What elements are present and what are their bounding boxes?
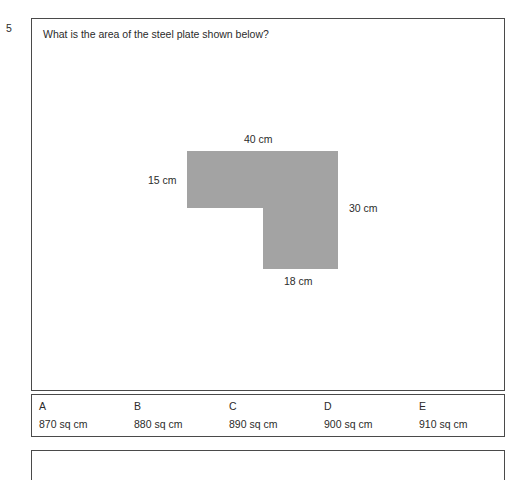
answer-option-b[interactable]: B 880 sq cm — [134, 401, 182, 429]
answer-letter: D — [324, 401, 372, 412]
answer-option-c[interactable]: C 890 sq cm — [229, 401, 277, 429]
dimension-label-bottom: 18 cm — [284, 276, 313, 287]
next-question-box — [31, 450, 505, 480]
dimension-label-right: 30 cm — [349, 203, 378, 214]
dimension-label-top: 40 cm — [244, 134, 273, 145]
question-box: What is the area of the steel plate show… — [31, 18, 505, 391]
answer-letter: A — [39, 401, 87, 412]
answer-value: 870 sq cm — [39, 419, 87, 430]
answer-option-d[interactable]: D 900 sq cm — [324, 401, 372, 429]
answer-letter: C — [229, 401, 277, 412]
steel-plate-figure: 40 cm 15 cm 30 cm 18 cm — [32, 19, 506, 392]
steel-plate-upper-section — [187, 151, 338, 208]
answer-value: 910 sq cm — [419, 419, 467, 430]
answer-options-row: A 870 sq cm B 880 sq cm C 890 sq cm D 90… — [32, 395, 504, 436]
dimension-label-left: 15 cm — [148, 175, 177, 186]
answer-value: 900 sq cm — [324, 419, 372, 430]
answer-value: 880 sq cm — [134, 419, 182, 430]
steel-plate-lower-section — [263, 208, 338, 269]
question-number: 5 — [6, 23, 12, 34]
answer-option-a[interactable]: A 870 sq cm — [39, 401, 87, 429]
answer-letter: B — [134, 401, 182, 412]
answer-options-box: A 870 sq cm B 880 sq cm C 890 sq cm D 90… — [31, 394, 505, 437]
answer-option-e[interactable]: E 910 sq cm — [419, 401, 467, 429]
answer-value: 890 sq cm — [229, 419, 277, 430]
answer-letter: E — [419, 401, 467, 412]
